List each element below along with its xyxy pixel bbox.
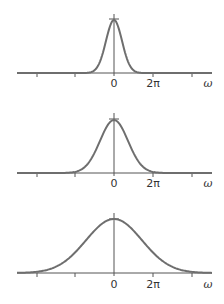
tick-label-zero: 0	[111, 77, 118, 90]
gaussian-charts: 0 2π ω 0 2π ω 0 2π ω	[0, 0, 224, 304]
axis-label-omega: ω	[204, 177, 213, 190]
chart-panel-narrow: 0 2π ω	[17, 14, 213, 90]
axis-label-omega: ω	[204, 77, 213, 90]
chart-panel-wide: 0 2π ω	[17, 213, 213, 291]
tick-label-zero: 0	[111, 278, 118, 291]
tick-label-2pi: 2π	[146, 77, 160, 90]
tick-label-2pi: 2π	[146, 177, 160, 190]
axis-label-omega: ω	[204, 278, 213, 291]
tick-label-zero: 0	[111, 177, 118, 190]
tick-label-2pi: 2π	[146, 278, 160, 291]
chart-panel-medium: 0 2π ω	[17, 113, 213, 190]
